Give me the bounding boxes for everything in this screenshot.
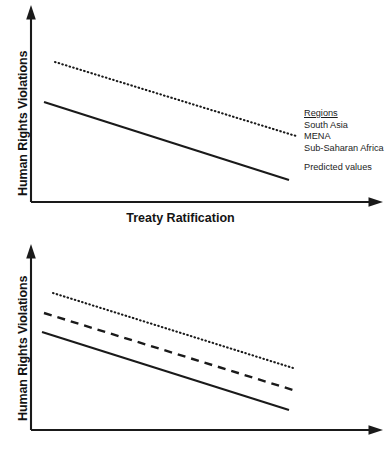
top-x-axis-title: Treaty Ratification — [0, 211, 361, 225]
bottom-series-dashed — [44, 313, 293, 390]
bottom-series-dotted — [53, 293, 293, 368]
top-y-axis-title: Human Rights Violations — [16, 51, 30, 196]
chart-panel-top: Human Rights Violations Treaty Ratificat… — [0, 0, 391, 235]
top-series-dotted — [55, 62, 296, 136]
top-legend-item-sub-saharan-africa: Sub-Saharan Africa — [304, 143, 384, 155]
bottom-x-axis — [31, 425, 383, 435]
chart-panel-bottom: Human Rights Violations Type of democrac… — [0, 235, 391, 449]
top-legend-note: Predicted values — [304, 162, 384, 174]
top-x-axis — [31, 197, 383, 207]
bottom-series-solid — [42, 332, 289, 410]
top-legend-spacer — [304, 154, 384, 162]
figure-root: Human Rights Violations Treaty Ratificat… — [0, 0, 391, 449]
top-legend-title: Regions — [304, 108, 384, 120]
bottom-y-axis-title: Human Rights Violations — [16, 276, 30, 421]
top-legend: Regions South Asia MENA Sub-Saharan Afri… — [304, 108, 384, 174]
bottom-chart-plot-area — [0, 235, 391, 449]
top-legend-item-south-asia: South Asia — [304, 120, 384, 132]
top-legend-item-mena: MENA — [304, 131, 384, 143]
top-series-solid — [44, 102, 289, 180]
